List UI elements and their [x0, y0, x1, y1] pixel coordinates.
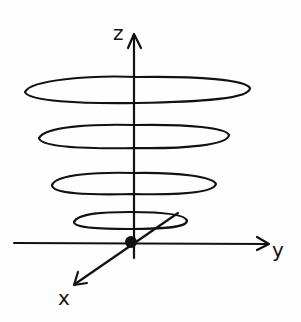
x-axis-label: x: [58, 286, 70, 310]
x-axis: [74, 213, 178, 285]
z-axis-label: z: [113, 21, 124, 45]
origin-dot-icon: [125, 236, 137, 248]
loop-bottom: [74, 212, 187, 229]
diagram-canvas: z y x: [0, 0, 301, 322]
axes-diagram: z y x: [0, 0, 301, 322]
loop-top: [25, 77, 250, 104]
y-axis-label: y: [272, 238, 284, 262]
loops: [25, 77, 250, 229]
z-axis: [128, 34, 141, 258]
